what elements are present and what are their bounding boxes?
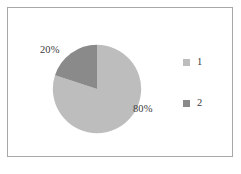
legend-swatch-1-icon	[183, 59, 190, 66]
pie-slice-label-2: 20%	[40, 45, 60, 56]
pie-slice-label-1: 80%	[133, 104, 153, 115]
legend-item-2[interactable]: 2	[183, 97, 231, 109]
chart-legend: 1 2	[183, 56, 231, 138]
legend-swatch-2-icon	[183, 100, 190, 107]
pie-plot-area: 20% 80% 1 2	[8, 8, 234, 158]
legend-item-1[interactable]: 1	[183, 56, 231, 68]
legend-label-2: 2	[197, 98, 202, 109]
pie-graphic	[51, 43, 143, 135]
legend-label-1: 1	[197, 57, 202, 68]
pie-chart-figure: 20% 80% 1 2	[0, 0, 241, 174]
figure-caption	[84, 163, 158, 168]
chart-plot-frame: 20% 80% 1 2	[7, 7, 233, 157]
